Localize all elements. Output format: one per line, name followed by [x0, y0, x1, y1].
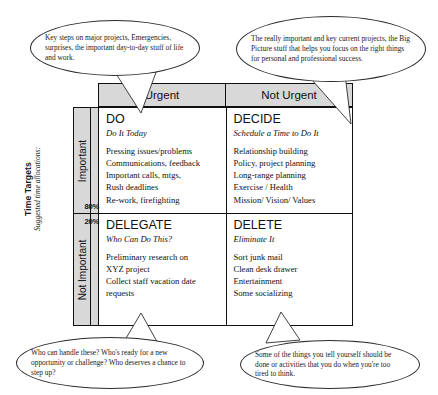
- time-targets-axis-caption: Time Targets Suggested time allocations:: [23, 134, 51, 244]
- row-percent-not-important: 20%: [91, 214, 99, 325]
- callout-delegate-text: Who can handle these? Who's ready for a …: [17, 348, 203, 377]
- quadrant-delegate-subtitle: Who Can Do This?: [106, 234, 226, 244]
- quadrant-do: DO Do It Today Pressing issues/problemsC…: [99, 108, 226, 214]
- quadrant-do-subtitle: Do It Today: [106, 128, 226, 138]
- row-percent-important: 80%: [91, 108, 99, 214]
- callout-delegate: Who can handle these? Who's ready for a …: [16, 337, 204, 389]
- row-label-not-important-text: Not Important: [77, 239, 88, 300]
- matrix-grid: Important 80% DO Do It Today Pressing is…: [73, 107, 353, 326]
- quadrant-delete-items: Sort junk mailClean desk drawerEntertain…: [234, 251, 353, 300]
- matrix-row-divider: [73, 213, 353, 214]
- row-percent-important-text: 80%: [84, 202, 99, 211]
- quadrant-decide: DECIDE Schedule a Time to Do It Relation…: [226, 108, 353, 214]
- axis-caption-subtitle: Suggested time allocations:: [33, 134, 42, 244]
- column-header-not-urgent: Not Urgent: [225, 84, 352, 106]
- quadrant-delegate: DELEGATE Who Can Do This? Preliminary re…: [99, 214, 226, 325]
- quadrant-delete-title: DELETE: [234, 219, 353, 233]
- row-label-important-text: Important: [77, 140, 88, 182]
- callout-decide-text: The really important and key current pro…: [237, 34, 425, 63]
- eisenhower-matrix-diagram: Key steps on major projects, Emergencies…: [0, 0, 438, 395]
- quadrant-delete-subtitle: Eliminate It: [234, 234, 353, 244]
- axis-caption-title: Time Targets: [23, 134, 33, 244]
- callout-do: Key steps on major projects, Emergencies…: [30, 20, 200, 76]
- callout-delete-text: Some of the things you tell yourself sho…: [241, 350, 419, 379]
- callout-delete: Some of the things you tell yourself sho…: [240, 340, 420, 389]
- quadrant-do-items: Pressing issues/problemsCommunications, …: [106, 145, 226, 206]
- row-percent-not-important-text: 20%: [84, 217, 99, 226]
- callout-decide: The really important and key current pro…: [236, 16, 426, 82]
- quadrant-delegate-title: DELEGATE: [106, 219, 226, 233]
- quadrant-decide-title: DECIDE: [234, 113, 353, 127]
- quadrant-do-title: DO: [106, 113, 226, 127]
- quadrant-delegate-items: Preliminary research onXYZ projectCollec…: [106, 251, 226, 300]
- quadrant-decide-subtitle: Schedule a Time to Do It: [234, 128, 353, 138]
- row-label-not-important: Not Important: [74, 214, 91, 325]
- quadrant-delete: DELETE Eliminate It Sort junk mailClean …: [226, 214, 353, 325]
- column-header-urgent: Urgent: [99, 84, 225, 106]
- callout-do-text: Key steps on major projects, Emergencies…: [31, 33, 199, 62]
- row-label-important: Important: [74, 108, 91, 214]
- column-header-row: Urgent Not Urgent: [98, 83, 353, 107]
- quadrant-decide-items: Relationship buildingPolicy, project pla…: [234, 145, 353, 206]
